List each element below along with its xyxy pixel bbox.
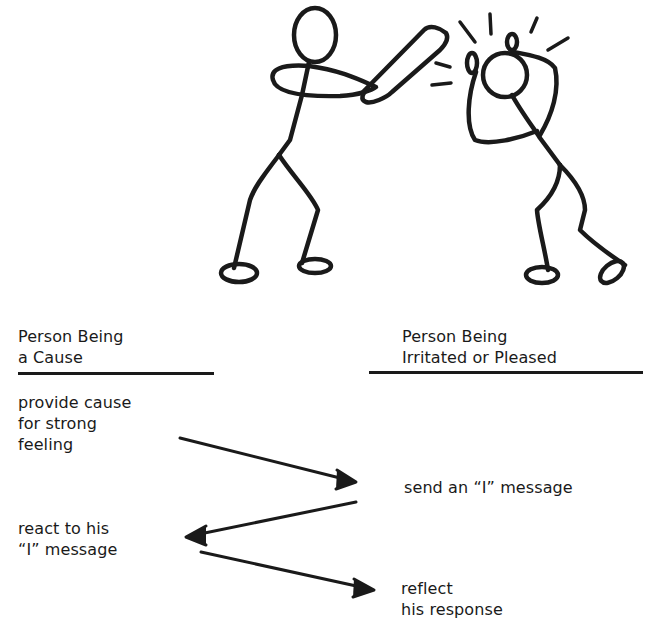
right-column-heading: Person Being Irritated or Pleased	[402, 326, 557, 368]
heading-line: Person Being	[402, 326, 557, 347]
arrowhead-icon	[353, 579, 374, 597]
heading-line: Person Being	[18, 326, 124, 347]
right-heading-rule	[369, 371, 643, 374]
hit-right-foot	[596, 257, 628, 287]
batter-left-leg	[234, 155, 279, 268]
batter-figure	[221, 8, 447, 282]
arrowhead-icon	[336, 470, 356, 489]
step-4: reflect his response	[401, 578, 503, 620]
step-line: “I” message	[18, 539, 117, 560]
hit-left-leg	[537, 165, 560, 270]
bat-icon	[362, 27, 447, 102]
heading-line: a Cause	[18, 347, 124, 368]
step-3: react to his “I” message	[18, 518, 117, 560]
arrow-right-icon	[180, 438, 352, 481]
batter-right-foot	[299, 259, 331, 273]
step-line: his response	[401, 599, 503, 620]
step-line: reflect	[401, 578, 503, 599]
batter-arms	[272, 66, 376, 97]
batter-left-foot	[221, 264, 257, 282]
flow-arrows	[180, 438, 374, 597]
hit-right-hand	[507, 34, 517, 50]
batter-right-leg	[279, 155, 318, 263]
step-line: for strong	[18, 413, 131, 434]
impact-lines-icon	[432, 14, 568, 85]
hit-head	[483, 53, 527, 97]
batter-torso	[279, 62, 309, 155]
hit-figure	[467, 34, 628, 287]
heading-line: Irritated or Pleased	[402, 347, 557, 368]
batter-head	[294, 8, 336, 62]
hit-left-foot	[526, 267, 558, 283]
step-line: provide cause	[18, 392, 131, 413]
step-line: send an “I” message	[404, 477, 573, 498]
hit-right-leg	[560, 165, 625, 265]
arrowhead-icon	[186, 526, 206, 545]
step-line: feeling	[18, 434, 131, 455]
step-2: send an “I” message	[404, 477, 573, 498]
left-column-heading: Person Being a Cause	[18, 326, 124, 368]
arrow-left-icon	[190, 502, 356, 536]
left-heading-rule	[18, 372, 214, 375]
arrow-right-icon	[201, 552, 370, 589]
step-line: react to his	[18, 518, 117, 539]
step-1: provide cause for strong feeling	[18, 392, 131, 455]
